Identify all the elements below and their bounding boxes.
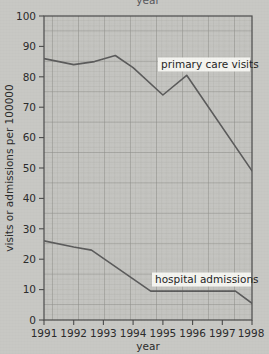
chart-figure: 100 90 80 70 60 50 40 30 20 10 0 1991 19… <box>0 0 269 354</box>
y-tick-label: 60 <box>23 131 36 143</box>
y-tick-label: 100 <box>16 10 36 22</box>
annotation-label: primary care visits <box>161 58 259 70</box>
y-tick-label: 40 <box>23 192 36 204</box>
x-tick-label: 1994 <box>120 327 147 339</box>
series-annotation-primary-care-visits: primary care visits <box>158 58 259 72</box>
x-tick-label: 1991 <box>31 327 58 339</box>
y-tick-label: 0 <box>29 314 36 326</box>
y-axis-title: visits or admissions per 100000 <box>3 84 15 251</box>
y-tick-label: 70 <box>23 101 36 113</box>
x-tick-label: 1992 <box>60 327 87 339</box>
series-annotation-hospital-admissions: hospital admissions <box>152 273 259 287</box>
x-axis-title: year <box>136 340 160 352</box>
annotation-label: hospital admissions <box>155 273 259 285</box>
line-chart: 100 90 80 70 60 50 40 30 20 10 0 1991 19… <box>0 0 269 354</box>
y-tick-label: 30 <box>23 223 36 235</box>
y-tick-label: 10 <box>23 283 36 295</box>
x-tick-label: 1997 <box>209 327 236 339</box>
x-tick-label: 1993 <box>90 327 117 339</box>
y-tick-label: 50 <box>23 162 36 174</box>
y-tick-label: 90 <box>23 40 36 52</box>
y-tick-label: 20 <box>23 253 36 265</box>
x-tick-label: 1998 <box>238 327 265 339</box>
chart-top-title: year <box>136 0 160 6</box>
x-tick-label: 1996 <box>179 327 206 339</box>
y-tick-label: 80 <box>23 71 36 83</box>
x-tick-label: 1995 <box>150 327 177 339</box>
